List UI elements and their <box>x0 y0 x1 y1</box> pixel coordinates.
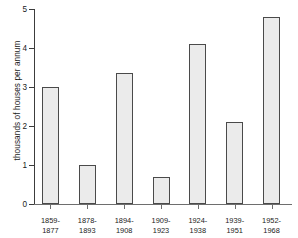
y-tick-1 <box>29 165 34 166</box>
plot-area: 012345 1859-18771878-18931894-19081909-1… <box>34 9 292 204</box>
x-tick-1 <box>87 204 88 209</box>
x-axis-label-line: 1923 <box>141 226 181 236</box>
y-tick-label-5: 5 <box>22 5 27 14</box>
x-axis-label-line: 1877 <box>30 226 70 236</box>
bar-1894-1908 <box>116 73 133 204</box>
x-axis-label-5: 1939-1951 <box>215 216 255 235</box>
x-tick-2 <box>124 204 125 209</box>
x-axis-label-0: 1859-1877 <box>30 216 70 235</box>
y-tick-label-0: 0 <box>22 200 27 209</box>
x-axis-label-4: 1924-1938 <box>178 216 218 235</box>
x-axis-label-1: 1878-1893 <box>67 216 107 235</box>
y-tick-label-3: 3 <box>22 83 27 92</box>
x-tick-0 <box>50 204 51 209</box>
x-axis-line <box>34 204 292 205</box>
x-axis-label-line: 1939- <box>215 216 255 226</box>
x-axis-label-3: 1909-1923 <box>141 216 181 235</box>
y-tick-4 <box>29 48 34 49</box>
bar-chart: thousands of houses per annum 012345 185… <box>0 0 298 238</box>
y-tick-0 <box>29 204 34 205</box>
y-tick-3 <box>29 87 34 88</box>
x-axis-label-line: 1968 <box>252 226 292 236</box>
x-tick-5 <box>235 204 236 209</box>
bar-1878-1893 <box>79 165 96 204</box>
x-axis-label-line: 1952- <box>252 216 292 226</box>
x-axis-label-line: 1859- <box>30 216 70 226</box>
x-axis-label-line: 1924- <box>178 216 218 226</box>
y-tick-label-4: 4 <box>22 44 27 53</box>
bar-1952-1968 <box>263 17 280 204</box>
y-tick-2 <box>29 126 34 127</box>
x-axis-label-line: 1938 <box>178 226 218 236</box>
x-axis-label-line: 1894- <box>104 216 144 226</box>
bar-1939-1951 <box>226 122 243 204</box>
bar-1924-1938 <box>189 44 206 204</box>
x-tick-3 <box>161 204 162 209</box>
y-axis-title: thousands of houses per annum <box>13 16 22 186</box>
x-axis-label-line: 1878- <box>67 216 107 226</box>
bar-1859-1877 <box>42 87 59 204</box>
x-tick-4 <box>198 204 199 209</box>
y-tick-label-1: 1 <box>22 161 27 170</box>
x-axis-label-6: 1952-1968 <box>252 216 292 235</box>
bar-1909-1923 <box>153 177 170 204</box>
x-axis-label-line: 1908 <box>104 226 144 236</box>
x-axis-label-line: 1951 <box>215 226 255 236</box>
y-tick-label-2: 2 <box>22 122 27 131</box>
x-axis-label-line: 1909- <box>141 216 181 226</box>
y-tick-5 <box>29 9 34 10</box>
y-axis-line <box>34 9 35 204</box>
x-axis-label-line: 1893 <box>67 226 107 236</box>
x-tick-6 <box>272 204 273 209</box>
x-axis-label-2: 1894-1908 <box>104 216 144 235</box>
